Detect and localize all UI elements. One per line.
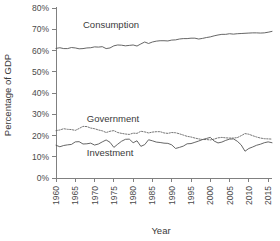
series-line-consumption xyxy=(56,31,272,48)
x-tick-label: 2015 xyxy=(263,186,273,205)
x-axis: 1960196519701975198019851990199520002005… xyxy=(51,178,273,205)
x-tick-label: 2010 xyxy=(244,186,254,205)
x-tick-label: 1960 xyxy=(51,186,61,205)
x-tick-label: 1995 xyxy=(186,186,196,205)
line-chart: 0%10%20%30%40%50%60%70%80% 1960196519701… xyxy=(0,0,280,241)
series-label-government: Government xyxy=(87,113,140,124)
x-tick-label: 1965 xyxy=(70,186,80,205)
y-tick-label: 80% xyxy=(32,3,49,13)
chart-container: 0%10%20%30%40%50%60%70%80% 1960196519701… xyxy=(0,0,280,241)
x-tick-label: 1980 xyxy=(128,186,138,205)
y-tick-label: 0% xyxy=(37,173,50,183)
x-axis-title: Year xyxy=(151,225,170,236)
x-tick-label: 1990 xyxy=(167,186,177,205)
x-tick-label: 1975 xyxy=(109,186,119,205)
y-axis: 0%10%20%30%40%50%60%70%80% xyxy=(32,3,56,183)
y-tick-label: 30% xyxy=(32,109,49,119)
x-tick-label: 1985 xyxy=(147,186,157,205)
y-axis-title: Percentage of GDP xyxy=(2,54,13,136)
series-labels: ConsumptionGovernmentInvestment xyxy=(83,19,139,158)
x-tick-label: 1970 xyxy=(90,186,100,205)
y-tick-label: 70% xyxy=(32,24,49,34)
y-tick-label: 40% xyxy=(32,88,49,98)
y-tick-label: 50% xyxy=(32,67,49,77)
y-tick-label: 10% xyxy=(32,152,49,162)
x-tick-label: 2005 xyxy=(225,186,235,205)
series-label-investment: Investment xyxy=(87,147,134,158)
series-lines xyxy=(56,31,272,151)
series-line-government xyxy=(56,126,272,140)
x-tick-label: 2000 xyxy=(205,186,215,205)
y-tick-label: 20% xyxy=(32,131,49,141)
y-tick-label: 60% xyxy=(32,46,49,56)
series-label-consumption: Consumption xyxy=(83,19,139,30)
